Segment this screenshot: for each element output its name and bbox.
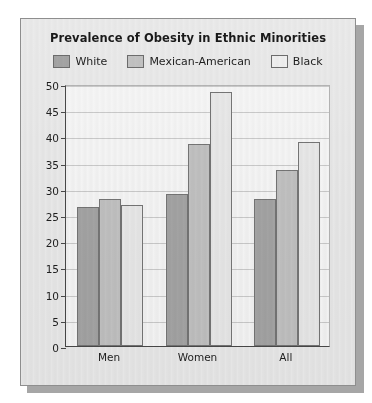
y-axis-tick: [61, 112, 66, 113]
bar-mexican-american-men: [99, 199, 121, 346]
bar-group-women: [166, 86, 232, 346]
bar-white-women: [166, 194, 188, 346]
bar-group-all: [254, 86, 320, 346]
legend-item: Black: [271, 55, 323, 68]
bar-group-men: [77, 86, 143, 346]
y-axis-label: 20: [46, 237, 59, 249]
y-axis-label: 35: [46, 159, 59, 171]
bar-mexican-american-women: [188, 144, 210, 346]
chart-figure: Prevalence of Obesity in Ethnic Minoriti…: [20, 18, 356, 386]
bar-mexican-american-all: [276, 170, 298, 346]
bar-black-men: [121, 205, 143, 346]
bar-black-all: [298, 142, 320, 346]
legend-swatch-mexican-american: [127, 55, 144, 68]
y-axis-label: 50: [46, 80, 59, 92]
legend-item: Mexican-American: [127, 55, 250, 68]
chart-page: Prevalence of Obesity in Ethnic Minoriti…: [0, 0, 372, 403]
legend-item: White: [53, 55, 107, 68]
bar-black-women: [210, 92, 232, 346]
y-axis-label: 10: [46, 290, 59, 302]
bar-white-all: [254, 199, 276, 346]
y-axis-label: 0: [52, 342, 59, 354]
y-axis-label: 30: [46, 185, 59, 197]
y-axis-tick: [61, 296, 66, 297]
y-axis-tick: [61, 322, 66, 323]
y-axis-label: 15: [46, 263, 59, 275]
y-axis-tick: [61, 165, 66, 166]
bar-white-men: [77, 207, 99, 346]
legend-swatch-white: [53, 55, 70, 68]
y-axis-tick: [61, 269, 66, 270]
plot-area: 05101520253035404550: [65, 85, 330, 347]
x-axis-label-women: Women: [153, 351, 241, 363]
legend-label: White: [75, 55, 107, 68]
legend-swatch-black: [271, 55, 288, 68]
chart-title: Prevalence of Obesity in Ethnic Minoriti…: [21, 31, 355, 45]
y-axis-tick: [61, 138, 66, 139]
y-axis-tick: [61, 243, 66, 244]
y-axis-label: 25: [46, 211, 59, 223]
legend-label: Mexican-American: [149, 55, 250, 68]
y-axis-label: 5: [52, 316, 59, 328]
y-axis-tick: [61, 191, 66, 192]
y-axis-tick: [61, 348, 66, 349]
x-axis-label-men: Men: [65, 351, 153, 363]
y-axis-label: 45: [46, 106, 59, 118]
x-axis-label-all: All: [242, 351, 330, 363]
y-axis-tick: [61, 217, 66, 218]
y-axis-label: 40: [46, 132, 59, 144]
chart-legend: WhiteMexican-AmericanBlack: [21, 55, 355, 68]
y-axis-tick: [61, 86, 66, 87]
legend-label: Black: [293, 55, 323, 68]
